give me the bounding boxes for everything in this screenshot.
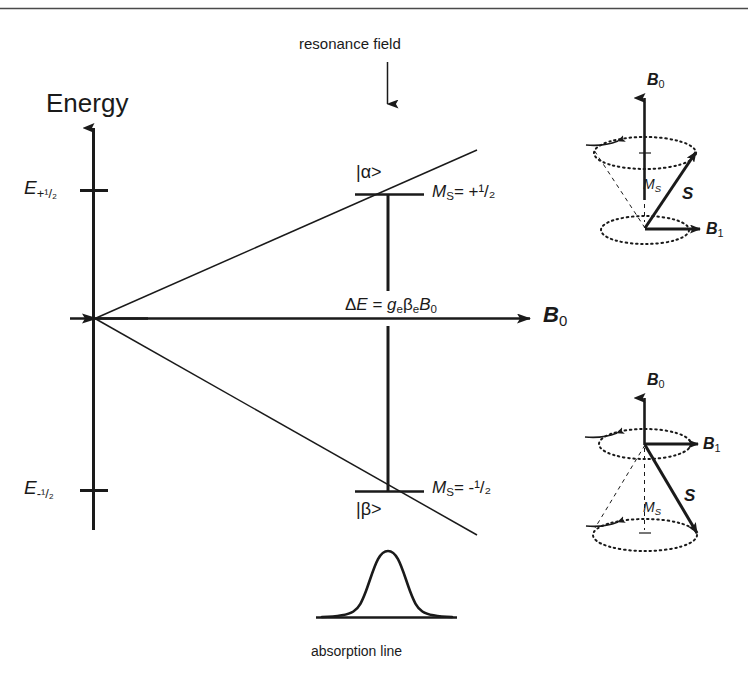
vec-top-precession-arrow bbox=[586, 141, 618, 145]
energy-tick-label-lower: E-¹/₂ bbox=[24, 478, 54, 501]
ms-upper-sub: S bbox=[446, 190, 454, 202]
energy-axis-label: Energy bbox=[46, 90, 128, 116]
energy-tick-label-upper: E+¹/₂ bbox=[24, 178, 57, 201]
ms-lower-symbol: M bbox=[432, 478, 446, 497]
vec-bot-cone-side-left bbox=[595, 445, 645, 528]
ket-alpha-label: |α> bbox=[356, 163, 382, 181]
vec-bottom-b0-symbol: B bbox=[647, 371, 659, 388]
absorption-line-label: absorption line bbox=[311, 644, 402, 658]
ms-lower-value: = -¹/₂ bbox=[454, 478, 491, 497]
vec-bottom-ms-symbol: M bbox=[643, 499, 655, 515]
vec-top-b1-sub: 1 bbox=[718, 227, 724, 239]
resonance-field-label: resonance field bbox=[299, 36, 401, 51]
vector-diagram-bottom bbox=[585, 398, 698, 551]
delta-symbol: Δ bbox=[345, 295, 356, 314]
level-line-alpha bbox=[95, 150, 477, 319]
field-symbol: B bbox=[419, 295, 430, 314]
vec-top-ms-label: MS bbox=[643, 177, 661, 193]
vec-top-ms-symbol: M bbox=[643, 176, 655, 192]
vector-diagram-top bbox=[586, 98, 700, 244]
g-factor-symbol: g bbox=[387, 295, 396, 314]
ket-beta-label: |β> bbox=[356, 500, 382, 518]
vec-bottom-ms-sub: S bbox=[655, 506, 661, 517]
energy-tick-lower-sub: -¹/₂ bbox=[37, 486, 54, 501]
energy-symbol: E bbox=[356, 295, 367, 314]
equals-sign: = bbox=[368, 295, 387, 314]
bohr-magneton-symbol: β bbox=[403, 295, 413, 314]
energy-tick-upper-sub: +¹/₂ bbox=[37, 186, 57, 201]
b0-axis-label: B0 bbox=[543, 304, 567, 329]
vec-bottom-b1-sub: 1 bbox=[715, 442, 721, 454]
vec-top-b1-symbol: B bbox=[706, 220, 718, 237]
vec-bottom-b1-label: B1 bbox=[703, 436, 721, 454]
ms-label-lower: MS= -¹/₂ bbox=[432, 479, 491, 499]
ms-upper-value: = +¹/₂ bbox=[454, 182, 496, 201]
ms-lower-sub: S bbox=[446, 486, 454, 498]
vec-top-ms-sub: S bbox=[655, 183, 661, 194]
delta-e-equation: ΔE = geβeB0 bbox=[345, 296, 437, 316]
vec-bottom-ms-label: MS bbox=[643, 500, 661, 516]
vec-bottom-b0-sub: 0 bbox=[659, 378, 665, 390]
b0-axis-sub: 0 bbox=[559, 312, 567, 329]
level-line-beta bbox=[95, 319, 477, 536]
epr-zeeman-figure: Energy E+¹/₂ E-¹/₂ resonance field |α> |… bbox=[0, 0, 748, 673]
vec-top-b0-label: B0 bbox=[647, 72, 665, 90]
field-sub: 0 bbox=[431, 303, 437, 315]
vec-top-b0-sub: 0 bbox=[659, 78, 665, 90]
vec-bottom-b0-label: B0 bbox=[647, 372, 665, 390]
absorption-peak-curve bbox=[322, 551, 452, 617]
vec-top-b0-symbol: B bbox=[647, 71, 659, 88]
ms-upper-symbol: M bbox=[432, 182, 446, 201]
ms-label-upper: MS= +¹/₂ bbox=[432, 183, 495, 203]
energy-tick-lower-symbol: E bbox=[24, 477, 37, 498]
vec-top-s-label: S bbox=[682, 185, 693, 202]
b0-axis-symbol: B bbox=[543, 302, 559, 327]
vec-bottom-s-label: S bbox=[684, 487, 695, 504]
vec-bottom-b1-symbol: B bbox=[703, 435, 715, 452]
energy-tick-upper-symbol: E bbox=[24, 177, 37, 198]
vec-top-b1-label: B1 bbox=[706, 221, 724, 239]
